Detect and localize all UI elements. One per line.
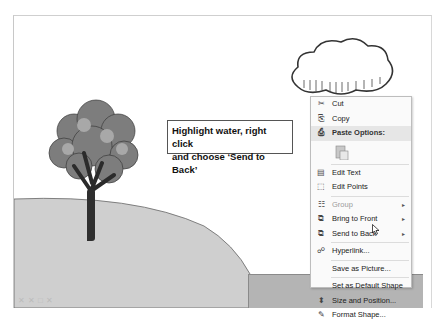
menu-separator [331, 242, 409, 243]
menu-item-format-shape[interactable]: ✎ Format Shape... [311, 308, 411, 323]
bring-to-front-icon: ⧉ [315, 212, 327, 227]
menu-item-send-to-back[interactable]: ⧉ Send to Back ▸ [311, 227, 411, 242]
size-position-icon: ⬍ [315, 294, 327, 309]
scissors-icon: ✂ [315, 97, 327, 112]
callout-line-2: and choose ‘Send to Back’ [172, 150, 288, 176]
copy-icon: ⎘ [315, 112, 327, 127]
submenu-arrow-icon: ▸ [402, 212, 405, 227]
paste-options-header: ⎙ Paste Options: [311, 126, 411, 141]
menu-item-hyperlink[interactable]: ☍ Hyperlink... [311, 244, 411, 259]
send-to-back-icon: ⧉ [315, 227, 327, 242]
menu-item-bring-to-front[interactable]: ⧉ Bring to Front ▸ [311, 212, 411, 227]
edit-text-icon: ▤ [315, 166, 327, 181]
format-shape-icon: ✎ [315, 308, 327, 323]
menu-item-group[interactable]: ☷ Group ▸ [311, 198, 411, 213]
menu-item-copy[interactable]: ⎘ Copy [311, 112, 411, 127]
clipboard-icon [335, 144, 349, 160]
menu-separator [331, 164, 409, 165]
menu-item-edit-text[interactable]: ▤ Edit Text [311, 166, 411, 181]
faint-toolbar-icons: ✕✕□✕ [18, 296, 56, 305]
paste-option-keep-source[interactable] [311, 141, 411, 163]
hyperlink-icon: ☍ [315, 244, 327, 259]
menu-separator [331, 196, 409, 197]
edit-points-icon: ⬚ [315, 180, 327, 195]
menu-separator [331, 277, 409, 278]
instruction-callout: Highlight water, right click and choose … [167, 120, 293, 154]
context-menu: ✂ Cut ⎘ Copy ⎙ Paste Options: ▤ Edit Tex… [310, 96, 412, 288]
paste-icon: ⎙ [315, 126, 327, 141]
callout-line-1: Highlight water, right click [172, 124, 288, 150]
group-icon: ☷ [315, 198, 327, 213]
menu-item-size-and-position[interactable]: ⬍ Size and Position... [311, 294, 411, 309]
menu-item-cut[interactable]: ✂ Cut [311, 97, 411, 112]
menu-item-save-as-picture[interactable]: Save as Picture... [311, 262, 411, 277]
menu-item-edit-points[interactable]: ⬚ Edit Points [311, 180, 411, 195]
menu-item-set-default-shape[interactable]: Set as Default Shape [311, 279, 411, 294]
cloud-image[interactable] [286, 32, 396, 102]
tree-image[interactable] [44, 91, 144, 241]
menu-separator [331, 260, 409, 261]
submenu-arrow-icon: ▸ [402, 198, 405, 213]
mouse-cursor-icon [372, 224, 380, 235]
submenu-arrow-icon: ▸ [402, 227, 405, 242]
